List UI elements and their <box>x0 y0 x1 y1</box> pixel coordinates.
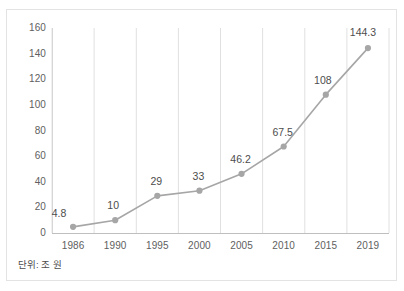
y-axis-tick-label: 140 <box>16 49 46 59</box>
y-axis-tick-label: 80 <box>16 126 46 136</box>
y-axis-tick-label: 160 <box>16 23 46 33</box>
x-axis-tick-label: 1995 <box>135 241 179 251</box>
data-point-marker <box>238 171 244 177</box>
data-point-marker <box>154 193 160 199</box>
data-point-label: 4.8 <box>37 208 81 219</box>
data-point-label: 29 <box>134 176 178 187</box>
x-axis-tick-label: 2000 <box>177 241 221 251</box>
data-point-label: 46.2 <box>219 154 263 165</box>
data-point-marker <box>196 188 202 194</box>
x-axis-tick-label: 2005 <box>220 241 264 251</box>
y-axis-tick-label: 120 <box>16 74 46 84</box>
x-axis-tick-label: 2010 <box>262 241 306 251</box>
data-point-label: 108 <box>301 75 345 86</box>
chart-figure: 160140120100806040200 198619901995200020… <box>0 0 404 291</box>
y-axis-tick-label: 40 <box>16 177 46 187</box>
data-point-marker <box>70 224 76 230</box>
y-axis-tick-label: 100 <box>16 100 46 110</box>
data-point-marker <box>365 45 371 51</box>
data-point-label: 144.3 <box>341 27 385 38</box>
data-point-marker <box>112 217 118 223</box>
data-point-label: 10 <box>91 200 135 211</box>
x-axis-tick-label: 2015 <box>304 241 348 251</box>
x-axis-tick-label: 1990 <box>93 241 137 251</box>
data-point-marker <box>281 143 287 149</box>
y-axis-tick-label: 0 <box>16 228 46 238</box>
x-axis-tick-label: 2019 <box>346 241 390 251</box>
unit-caption: 단위: 조 원 <box>18 259 62 270</box>
data-point-label: 67.5 <box>261 127 305 138</box>
data-point-marker <box>323 92 329 98</box>
y-axis-tick-label: 60 <box>16 151 46 161</box>
data-point-label: 33 <box>176 171 220 182</box>
x-axis-tick-label: 1986 <box>51 241 95 251</box>
